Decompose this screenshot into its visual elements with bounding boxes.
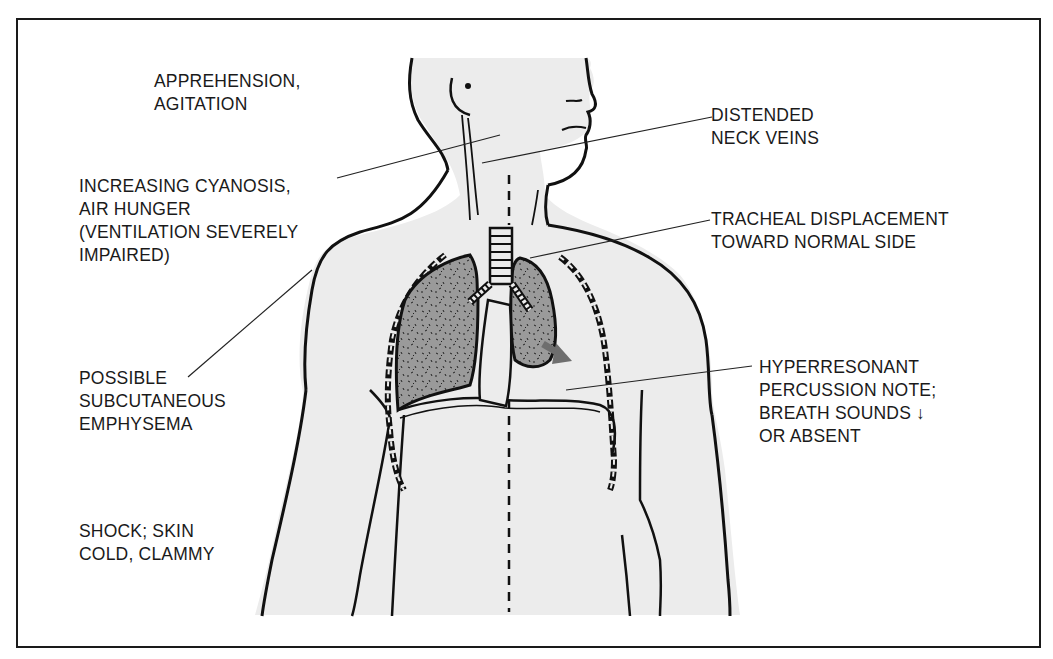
label-apprehension: APPREHENSION, AGITATION (154, 70, 301, 116)
label-shock: SHOCK; SKIN COLD, CLAMMY (79, 520, 215, 566)
label-cyanosis: INCREASING CYANOSIS, AIR HUNGER (VENTILA… (79, 175, 298, 267)
label-subcutaneous-emphysema: POSSIBLE SUBCUTANEOUS EMPHYSEMA (79, 367, 226, 436)
label-tracheal-displacement: TRACHEAL DISPLACEMENT TOWARD NORMAL SIDE (711, 208, 949, 254)
label-hyperresonant: HYPERRESONANT PERCUSSION NOTE; BREATH SO… (759, 356, 936, 448)
label-distended-neck-veins: DISTENDED NECK VEINS (711, 104, 819, 150)
